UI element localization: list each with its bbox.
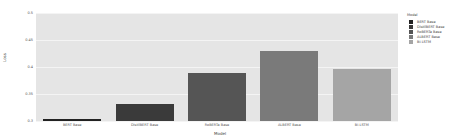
legend-label: DistilBERT Base xyxy=(417,25,444,29)
legend-swatch-icon xyxy=(409,40,413,44)
legend-swatch-icon xyxy=(409,25,413,29)
legend: Model BERT BaseDistilBERT BaseRoBERTa Ba… xyxy=(407,13,444,44)
bar[interactable] xyxy=(333,69,391,121)
x-tick-label: BERT Base xyxy=(36,123,108,127)
legend-label: RoBERTa Base xyxy=(417,30,442,34)
gridline xyxy=(36,13,398,14)
legend-swatch-icon xyxy=(409,35,413,39)
legend-item[interactable]: ALBERT Base xyxy=(407,34,444,39)
y-axis-label: Loss xyxy=(2,53,7,62)
x-tick-label: DistilBERT Base xyxy=(108,123,180,127)
x-tick-label: Bi-LSTM xyxy=(326,123,398,127)
legend-label: ALBERT Base xyxy=(417,35,440,39)
bar[interactable] xyxy=(188,73,246,121)
y-tick-label: 0.4 xyxy=(0,65,33,69)
bar[interactable] xyxy=(260,51,318,121)
bar[interactable] xyxy=(116,104,174,121)
y-tick-label: 0.35 xyxy=(0,92,33,96)
plot-area xyxy=(36,13,398,121)
gridline xyxy=(36,121,398,122)
legend-item[interactable]: Bi-LSTM xyxy=(407,39,444,44)
legend-item[interactable]: RoBERTa Base xyxy=(407,29,444,34)
legend-swatch-icon xyxy=(409,20,413,24)
legend-label: BERT Base xyxy=(417,20,436,24)
legend-item[interactable]: DistilBERT Base xyxy=(407,24,444,29)
legend-title: Model xyxy=(407,13,444,17)
x-tick-label: ALBERT Base xyxy=(253,123,325,127)
bar[interactable] xyxy=(43,119,101,121)
y-tick-label: 0.3 xyxy=(0,119,33,123)
x-axis-label: Model xyxy=(200,131,240,136)
x-tick-label: RoBERTa Base xyxy=(181,123,253,127)
y-tick-label: 0.45 xyxy=(0,38,33,42)
legend-label: Bi-LSTM xyxy=(417,40,431,44)
gridline xyxy=(36,67,398,68)
gridline xyxy=(36,40,398,41)
legend-swatch-icon xyxy=(409,30,413,34)
y-tick-label: 0.5 xyxy=(0,11,33,15)
